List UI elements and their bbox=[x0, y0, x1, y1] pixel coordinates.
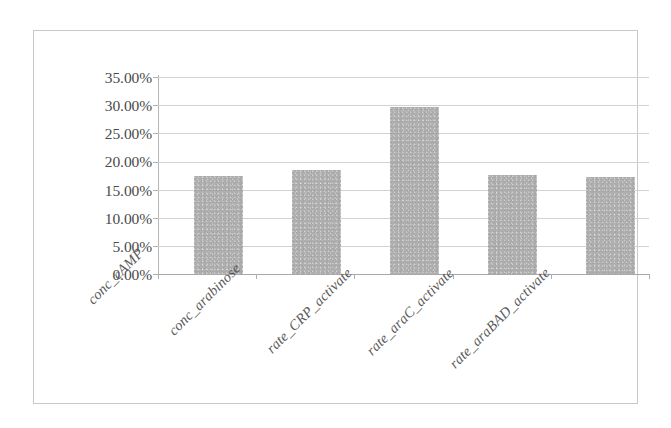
y-tick-label: 0.00% bbox=[66, 266, 152, 284]
plot-area bbox=[158, 77, 649, 274]
x-tick-mark bbox=[453, 274, 454, 279]
x-axis-line bbox=[158, 274, 650, 275]
x-tick-mark bbox=[158, 274, 159, 279]
chart-frame: 35.00% 30.00% 25.00% 20.00% 15.00% 10.00… bbox=[33, 30, 638, 404]
bar-conc-arabinose bbox=[292, 170, 341, 274]
y-tick-label: 25.00% bbox=[66, 125, 152, 143]
y-tick-label: 5.00% bbox=[66, 238, 152, 256]
y-tick-label: 20.00% bbox=[66, 153, 152, 171]
gridline bbox=[158, 105, 649, 106]
x-tick-mark bbox=[649, 274, 650, 279]
y-axis-tick-labels: 35.00% 30.00% 25.00% 20.00% 15.00% 10.00… bbox=[60, 31, 152, 311]
y-tick-label: 30.00% bbox=[66, 97, 152, 115]
x-tick-mark bbox=[354, 274, 355, 279]
x-tick-mark bbox=[551, 274, 552, 279]
bar-rate-araC-activate bbox=[488, 175, 537, 274]
y-tick-label: 10.00% bbox=[66, 210, 152, 228]
bar-rate-araBAD-activate bbox=[586, 177, 635, 274]
x-tick-mark bbox=[256, 274, 257, 279]
bar-conc-cAMP bbox=[194, 176, 243, 274]
y-tick-label: 15.00% bbox=[66, 182, 152, 200]
gridline bbox=[158, 77, 649, 78]
bar-rate-CRP-activate bbox=[390, 107, 439, 274]
y-tick-label: 35.00% bbox=[66, 69, 152, 87]
